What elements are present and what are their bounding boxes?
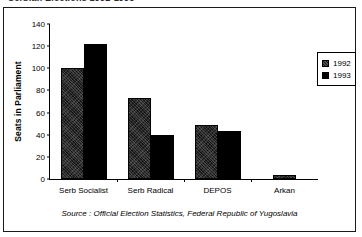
x-axis-category-label: Serb Radical: [128, 186, 174, 195]
chart-figure: Serbian Elections 1992-1993 Seats in Par…: [0, 0, 362, 237]
bar-1993: [84, 44, 107, 179]
bar-group: DEPOS: [184, 24, 251, 179]
x-axis-category-label: Serb Socialist: [59, 186, 108, 195]
bar-group: Serb Radical: [117, 24, 184, 179]
y-axis-tick-label: 80: [36, 86, 45, 95]
y-axis-tick-label: 40: [36, 130, 45, 139]
bar-1992: [273, 175, 296, 179]
chart-frame: Seats in Parliament 020406080100120140 S…: [3, 7, 356, 232]
bar-group-bars: [50, 24, 117, 179]
dark-hatched-swatch: [322, 60, 329, 67]
plot-area: 020406080100120140 Serb SocialistSerb Ra…: [49, 24, 318, 180]
bar-1993: [151, 135, 174, 179]
x-axis-separator-tick: [184, 179, 185, 182]
bar-group-bars: [251, 24, 318, 179]
y-axis-tick-label: 0: [41, 175, 45, 184]
legend-item-label: 1992: [333, 59, 351, 68]
legend-item-1992[interactable]: 1992: [322, 57, 351, 69]
bar-group-bars: [117, 24, 184, 179]
solid-black-swatch: [322, 72, 329, 79]
y-axis-tick-label: 120: [32, 42, 45, 51]
bar-1992: [128, 98, 151, 179]
legend-item-1993[interactable]: 1993: [322, 69, 351, 81]
x-axis-category-label: DEPOS: [203, 186, 231, 195]
x-axis-category-label: Arkan: [274, 186, 295, 195]
bar-1992: [195, 125, 218, 179]
y-axis-title: Seats in Parliament: [13, 24, 27, 179]
y-axis-tick-label: 60: [36, 108, 45, 117]
bar-group-bars: [184, 24, 251, 179]
source-note: Source : Official Election Statistics, F…: [4, 209, 355, 218]
bar-1992: [61, 68, 84, 179]
y-axis-tick-label: 20: [36, 152, 45, 161]
x-axis-separator-tick: [251, 179, 252, 182]
chart-title: Serbian Elections 1992-1993: [8, 0, 134, 3]
clipped-title-strip: Serbian Elections 1992-1993: [0, 0, 362, 7]
y-axis-tick-label: 140: [32, 20, 45, 29]
bar-group: Arkan: [251, 24, 318, 179]
bar-1993: [218, 131, 241, 179]
bar-group: Serb Socialist: [50, 24, 117, 179]
x-axis-separator-tick: [117, 179, 118, 182]
y-axis-tick-label: 100: [32, 64, 45, 73]
legend-item-label: 1993: [333, 71, 351, 80]
chart-legend: 19921993: [317, 52, 356, 86]
